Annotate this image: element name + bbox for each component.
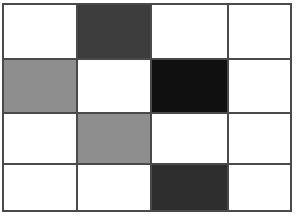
grid-cell-r2c1 (4, 60, 78, 114)
grid-cell-r4c2 (78, 165, 152, 210)
grid-table (2, 3, 292, 212)
grid-cell-r3c1 (4, 114, 78, 165)
grid-cell-r3c2 (78, 114, 152, 165)
grid-cell-r4c4 (229, 165, 290, 210)
grid-cell-r2c2 (78, 60, 152, 114)
grid-cell-r4c1 (4, 165, 78, 210)
grid-cell-r1c1 (4, 5, 78, 60)
grid-cell-r1c2 (78, 5, 152, 60)
grid-cell-r2c4 (229, 60, 290, 114)
grid-cell-r1c3 (152, 5, 229, 60)
figure-canvas (0, 0, 299, 218)
grid-cell-r3c3 (152, 114, 229, 165)
grid-cell-r1c4 (229, 5, 290, 60)
grid-cell-r4c3 (152, 165, 229, 210)
grid-cell-r3c4 (229, 114, 290, 165)
grid-cell-r2c3 (152, 60, 229, 114)
